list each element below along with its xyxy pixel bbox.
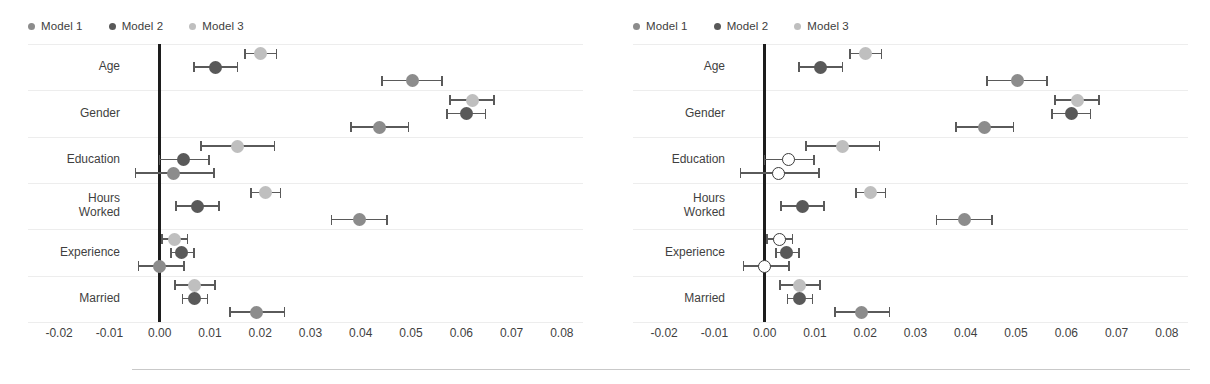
- estimate-marker: [772, 167, 785, 180]
- ci-cap-lower: [175, 201, 177, 211]
- gridline: [28, 44, 583, 45]
- ci-cap-lower: [200, 141, 202, 151]
- category-label: Married: [605, 291, 725, 305]
- estimate-marker: [168, 233, 181, 246]
- ci-cap-lower: [766, 234, 768, 244]
- legend-right: Model 1Model 2Model 3: [633, 20, 849, 32]
- x-axis-tick-label: 0.06: [1055, 326, 1078, 340]
- ci-cap-upper: [237, 62, 239, 72]
- category-label-line: Education: [0, 152, 120, 166]
- ci-cap-lower: [740, 168, 742, 178]
- estimate-marker: [167, 167, 180, 180]
- ci-cap-upper: [280, 188, 282, 198]
- legend-label: Model 1: [41, 20, 83, 32]
- x-axis-tick-label: 0.01: [198, 326, 221, 340]
- ci-cap-lower: [955, 122, 957, 132]
- category-label-line: Age: [0, 59, 120, 73]
- estimate-marker: [188, 279, 201, 292]
- category-label-line: Experience: [605, 245, 725, 259]
- ci-cap-upper: [284, 307, 286, 317]
- legend-marker-icon: [714, 23, 721, 30]
- category-label: Gender: [0, 106, 120, 120]
- footer-rule: [132, 369, 1190, 370]
- ci-cap-lower: [350, 122, 352, 132]
- forest-plot-figure: Model 1Model 2Model 3 AgeGenderEducation…: [0, 0, 1210, 384]
- legend-item-1[interactable]: Model 1: [28, 20, 83, 32]
- legend-marker-icon: [794, 23, 801, 30]
- ci-cap-upper: [889, 307, 891, 317]
- legend-item-3[interactable]: Model 3: [794, 20, 849, 32]
- ci-cap-upper: [792, 234, 794, 244]
- legend-item-3[interactable]: Model 3: [189, 20, 244, 32]
- legend-item-2[interactable]: Model 2: [714, 20, 769, 32]
- estimate-marker: [353, 213, 366, 226]
- ci-cap-upper: [823, 201, 825, 211]
- ci-cap-lower: [849, 49, 851, 59]
- category-label: HoursWorked: [605, 191, 725, 219]
- ci-cap-upper: [812, 294, 814, 304]
- category-label: Married: [0, 291, 120, 305]
- x-axis-tick-label: 0.08: [550, 326, 573, 340]
- ci-cap-lower: [1054, 95, 1056, 105]
- gridline: [28, 229, 583, 230]
- category-label-line: Experience: [0, 245, 120, 259]
- ci-cap-lower: [779, 280, 781, 290]
- category-label-line: Worked: [605, 205, 725, 219]
- category-label-line: Married: [0, 291, 120, 305]
- gridline: [633, 44, 1188, 45]
- ci-cap-lower: [764, 155, 766, 165]
- ci-cap-lower: [193, 62, 195, 72]
- ci-cap-upper: [879, 141, 881, 151]
- ci-cap-lower: [743, 261, 745, 271]
- ci-cap-lower: [244, 49, 246, 59]
- ci-cap-lower: [936, 215, 938, 225]
- category-label-line: Hours: [0, 191, 120, 205]
- ci-cap-lower: [138, 261, 140, 271]
- legend-label: Model 1: [646, 20, 688, 32]
- category-label: Age: [605, 59, 725, 73]
- ci-cap-upper: [885, 188, 887, 198]
- legend-item-1[interactable]: Model 1: [633, 20, 688, 32]
- estimate-marker: [466, 94, 479, 107]
- plot-area-left: AgeGenderEducationHoursWorkedExperienceM…: [0, 44, 605, 322]
- category-label-line: Married: [605, 291, 725, 305]
- ci-cap-upper: [1090, 109, 1092, 119]
- x-axis-tick-label: 0.07: [1105, 326, 1128, 340]
- ci-cap-lower: [787, 294, 789, 304]
- ci-cap-upper: [788, 261, 790, 271]
- ci-cap-upper: [386, 215, 388, 225]
- x-axis-tick-label: 0.03: [904, 326, 927, 340]
- gridline: [28, 90, 583, 91]
- category-label-line: Worked: [0, 205, 120, 219]
- ci-cap-lower: [775, 248, 777, 258]
- estimate-marker: [782, 153, 795, 166]
- estimate-marker: [836, 140, 849, 153]
- estimate-marker: [814, 61, 827, 74]
- x-axis-tick-label: 0.00: [148, 326, 171, 340]
- ci-cap-upper: [207, 294, 209, 304]
- ci-cap-upper: [881, 49, 883, 59]
- x-axis-tick-label: 0.02: [249, 326, 272, 340]
- legend-label: Model 3: [807, 20, 849, 32]
- legend-item-2[interactable]: Model 2: [109, 20, 164, 32]
- zero-reference-line: [158, 44, 161, 322]
- ci-cap-lower: [331, 215, 333, 225]
- legend-label: Model 2: [727, 20, 769, 32]
- x-axis-right: -0.02-0.010.000.010.020.030.040.050.060.…: [605, 326, 1210, 346]
- estimate-marker: [855, 306, 868, 319]
- x-axis-tick-label: -0.02: [45, 326, 72, 340]
- category-label: Experience: [0, 245, 120, 259]
- gridline: [28, 183, 583, 184]
- estimate-marker: [793, 279, 806, 292]
- legend-label: Model 2: [122, 20, 164, 32]
- ci-cap-upper: [813, 155, 815, 165]
- estimate-marker: [773, 233, 786, 246]
- estimate-marker: [758, 260, 771, 273]
- ci-cap-lower: [229, 307, 231, 317]
- ci-cap-lower: [834, 307, 836, 317]
- category-label-line: Education: [605, 152, 725, 166]
- x-axis-tick-label: 0.04: [349, 326, 372, 340]
- category-label-line: Hours: [605, 191, 725, 205]
- ci-cap-lower: [780, 201, 782, 211]
- x-axis-tick-label: 0.06: [450, 326, 473, 340]
